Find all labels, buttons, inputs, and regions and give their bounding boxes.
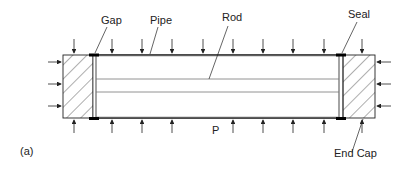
panel-label: (a) [20,145,33,157]
gap-seal-top-left [89,54,99,57]
pressure-label: P [212,124,219,136]
gap-leader [95,27,107,53]
right-end-cap [339,55,375,118]
top-pressure-arrows [74,39,362,53]
pipe-rod-diagram: Gap Pipe Rod Seal P End Cap (a) [0,0,409,169]
right-pressure-arrows [377,62,391,106]
left-pressure-arrows [48,62,61,106]
gap-seal-bottom-left [89,117,99,120]
seal-bottom-right [336,117,346,120]
pipe [96,55,339,118]
seals [89,54,346,121]
rod-label: Rod [222,11,242,23]
left-end-cap [63,55,96,118]
end-cap-label: End Cap [334,147,377,159]
pipe-label: Pipe [150,14,172,26]
seal-label: Seal [348,8,370,20]
rod [96,79,339,92]
leader-lines [95,22,363,152]
rod-leader [209,26,228,79]
pipe-leader [150,27,158,54]
seal-top-right [336,54,346,57]
gap-label: Gap [101,14,122,26]
seal-leader [342,22,357,53]
